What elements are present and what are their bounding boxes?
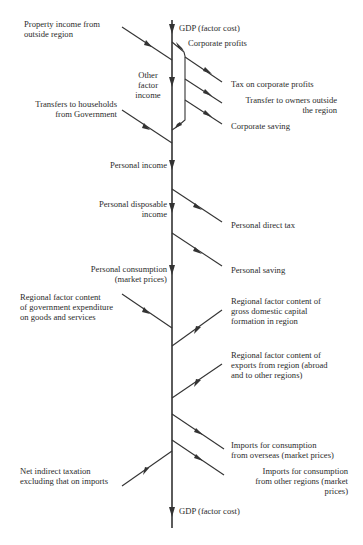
- label-corporate-profits: Corporate profits: [188, 38, 247, 48]
- arrow-property-income-icon: [144, 40, 152, 47]
- label-personal-saving: Personal saving: [231, 265, 285, 275]
- label-property-income: Property income from outside region: [24, 19, 100, 39]
- label-gov-expenditure: Regional factor content of government ex…: [20, 292, 113, 322]
- label-transfer-owners: Transfer to owners outside the region: [231, 95, 337, 115]
- arrow-gdp-bottom-icon: [169, 507, 175, 517]
- arrow-capital-formation-icon: [194, 326, 201, 334]
- label-personal-consumption: Personal consumption (market prices): [50, 264, 167, 284]
- arrow-imports-overseas-icon: [194, 428, 203, 435]
- label-net-indirect-tax: Net indirect taxation excluding that on …: [20, 466, 108, 486]
- corporate-profits-loop: [172, 42, 185, 130]
- arrow-gdp-top-icon: [169, 24, 175, 34]
- arrow-tax-corporate-icon: [203, 67, 212, 74]
- tax-corporate-flow: [185, 57, 222, 82]
- arrow-transfer-owners-icon: [203, 89, 212, 96]
- arrow-consumption-icon: [169, 265, 175, 275]
- label-personal-income: Personal income: [60, 160, 167, 170]
- label-personal-disposable-income: Personal disposable income: [60, 199, 167, 219]
- label-capital-formation: Regional factor content of gross domesti…: [231, 296, 321, 326]
- label-other-factor-income: Other factor income: [128, 70, 168, 100]
- label-corporate-saving: Corporate saving: [231, 121, 290, 131]
- arrow-imports-regions-icon: [194, 454, 203, 461]
- arrow-personal-income-icon: [169, 160, 175, 170]
- label-exports: Regional factor content of exports from …: [231, 350, 328, 380]
- arrow-exports-icon: [194, 379, 201, 387]
- label-personal-direct-tax: Personal direct tax: [231, 220, 295, 230]
- arrow-other-factor-icon: [169, 77, 175, 87]
- label-gdp-bottom: GDP (factor cost): [179, 506, 240, 516]
- label-imports-overseas: Imports for consumption from overseas (m…: [231, 440, 334, 460]
- arrow-corporate-saving-icon: [203, 110, 212, 117]
- corporate-saving-flow: [185, 100, 222, 124]
- label-transfers-households: Transfers to households from Government: [20, 99, 117, 119]
- transfer-owners-flow: [185, 79, 222, 103]
- label-imports-regions: Imports for consumption from other regio…: [231, 466, 348, 496]
- arrow-disposable-income-icon: [169, 203, 175, 213]
- label-gdp-top: GDP (factor cost): [179, 23, 240, 33]
- label-tax-corporate: Tax on corporate profits: [231, 79, 314, 89]
